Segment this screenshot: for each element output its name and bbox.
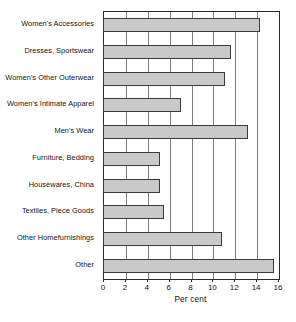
bar xyxy=(103,259,274,273)
category-label-row: Women's Intimate Apparel xyxy=(0,91,99,118)
category-label-row: Other xyxy=(0,251,99,278)
x-axis: Per cent 0246810121416 xyxy=(103,279,280,319)
category-label-row: Other Homefurnishings xyxy=(0,225,99,252)
category-label: Dresses, Sportswear xyxy=(24,47,94,55)
bar xyxy=(103,205,164,219)
bar-row xyxy=(104,92,279,119)
x-tick-mark xyxy=(256,279,257,282)
x-tick-mark xyxy=(212,279,213,282)
x-tick-mark xyxy=(103,279,104,282)
x-tick-label: 12 xyxy=(230,283,239,292)
x-tick-mark xyxy=(278,279,279,282)
plot-area xyxy=(103,11,280,280)
category-label: Other xyxy=(75,261,94,269)
bar-row xyxy=(104,119,279,146)
bar-row xyxy=(104,199,279,226)
x-tick-label: 0 xyxy=(101,283,105,292)
bar-row xyxy=(104,226,279,253)
bar xyxy=(103,125,248,139)
category-label: Women's Other Outerwear xyxy=(5,74,94,82)
bar-chart: Women's Accessories Dresses, Sportswear … xyxy=(0,0,296,322)
x-tick-label: 14 xyxy=(252,283,261,292)
x-tick-mark xyxy=(191,279,192,282)
category-label: Men's Wear xyxy=(54,127,94,135)
bar-row xyxy=(104,252,279,279)
category-label: Housewares, China xyxy=(29,181,94,189)
bar xyxy=(103,152,160,166)
bar-row xyxy=(104,65,279,92)
category-label: Women's Accessories xyxy=(21,20,94,28)
bars-layer xyxy=(104,12,279,279)
x-axis-title: Per cent xyxy=(103,295,278,305)
x-tick-mark xyxy=(125,279,126,282)
bar-row xyxy=(104,39,279,66)
x-tick-label: 6 xyxy=(166,283,170,292)
category-label: Textiles, Piece Goods xyxy=(22,207,94,215)
x-tick-mark xyxy=(147,279,148,282)
bar-row xyxy=(104,12,279,39)
category-label: Furniture, Bedding xyxy=(32,154,94,162)
category-label-row: Furniture, Bedding xyxy=(0,145,99,172)
bar xyxy=(103,232,222,246)
bar xyxy=(103,45,231,59)
x-tick-mark xyxy=(169,279,170,282)
bar-row xyxy=(104,146,279,173)
x-tick-label: 10 xyxy=(208,283,217,292)
category-label: Other Homefurnishings xyxy=(17,234,94,242)
category-label-row: Textiles, Piece Goods xyxy=(0,198,99,225)
bar xyxy=(103,98,181,112)
bar xyxy=(103,18,260,32)
category-label-row: Women's Accessories xyxy=(0,11,99,38)
x-tick-label: 16 xyxy=(274,283,283,292)
category-axis-labels: Women's Accessories Dresses, Sportswear … xyxy=(0,11,99,278)
x-tick-label: 2 xyxy=(123,283,127,292)
category-label-row: Housewares, China xyxy=(0,171,99,198)
category-label-row: Women's Other Outerwear xyxy=(0,64,99,91)
bar xyxy=(103,179,160,193)
x-tick-mark xyxy=(234,279,235,282)
x-tick-label: 4 xyxy=(145,283,149,292)
x-tick-label: 8 xyxy=(188,283,192,292)
bar-row xyxy=(104,172,279,199)
category-label: Women's Intimate Apparel xyxy=(7,100,94,108)
category-label-row: Dresses, Sportswear xyxy=(0,38,99,65)
bar xyxy=(103,72,225,86)
category-label-row: Men's Wear xyxy=(0,118,99,145)
